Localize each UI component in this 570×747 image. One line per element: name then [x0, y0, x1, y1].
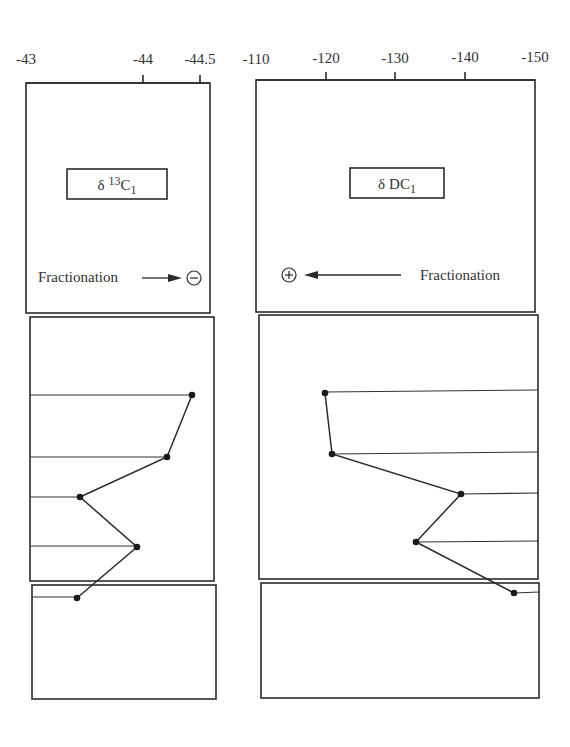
right-data-point: [511, 590, 518, 597]
right-data-panel: [259, 315, 538, 579]
left-lower-panel: [32, 585, 216, 699]
arrow-left-icon: [304, 271, 318, 279]
right-title: δDC1: [378, 176, 416, 196]
left-data-point: [74, 595, 81, 602]
arrow-right-icon: [168, 274, 182, 282]
right-series-line: [325, 393, 514, 593]
left-data-point: [164, 454, 171, 461]
left-title: δ13C1: [97, 174, 136, 197]
right-lower-panel: [261, 583, 539, 698]
right-data-point: [329, 451, 336, 458]
right-data-point: [413, 539, 420, 546]
right-chart: -110 -120 -130 -140 -150 δDC1 Fractionat…: [243, 49, 549, 698]
right-tick-label: -130: [381, 50, 409, 66]
left-data-point: [77, 494, 84, 501]
left-series-line: [77, 395, 192, 598]
left-tick-label: -44: [133, 51, 153, 67]
left-data-panel: [30, 317, 214, 581]
left-fractionation-label: Fractionation: [38, 269, 118, 285]
right-data-point: [322, 390, 329, 397]
left-data-point: [189, 392, 196, 399]
right-leader-line: [325, 390, 537, 392]
right-tick-label: -120: [312, 50, 340, 66]
right-leader-line: [332, 452, 538, 454]
left-tick-label: -43: [16, 51, 36, 67]
right-leader-line: [461, 493, 538, 494]
right-leader-line: [416, 541, 538, 542]
right-tick-label: -140: [451, 49, 479, 65]
left-tick-label: -44.5: [184, 51, 215, 67]
left-data-point: [134, 544, 141, 551]
right-tick-label: -110: [243, 51, 270, 67]
right-fractionation-label: Fractionation: [420, 267, 500, 283]
right-tick-label: -150: [521, 49, 549, 65]
chart-canvas: -43 -44 -44.5 δ13C1 Fractionation: [0, 0, 570, 747]
right-data-point: [458, 491, 465, 498]
right-leader-line: [514, 592, 539, 593]
left-chart: -43 -44 -44.5 δ13C1 Fractionation: [16, 51, 216, 699]
